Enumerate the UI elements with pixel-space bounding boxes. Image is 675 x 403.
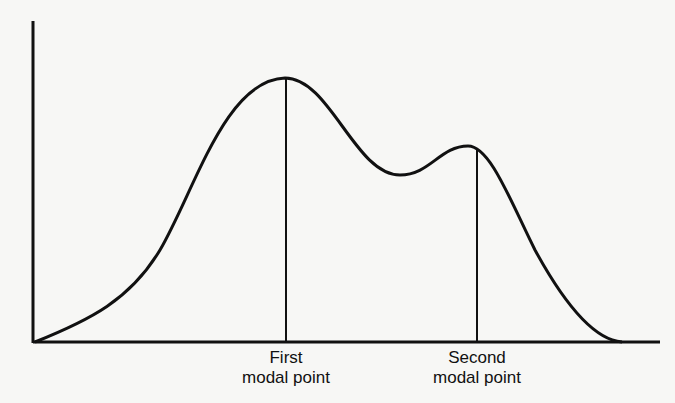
first-modal-label: First modal point [216,348,356,388]
first-modal-label-line2: modal point [216,368,356,388]
second-modal-label-line2: modal point [407,368,547,388]
first-modal-label-line1: First [216,348,356,368]
bimodal-diagram [0,0,675,403]
distribution-curve [35,78,622,342]
second-modal-label: Second modal point [407,348,547,388]
second-modal-label-line1: Second [407,348,547,368]
